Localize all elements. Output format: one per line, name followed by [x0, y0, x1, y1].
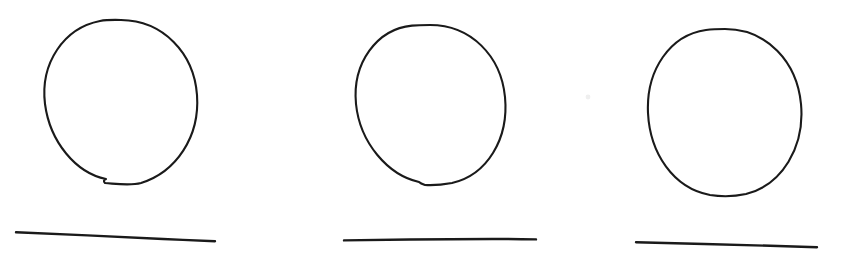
- circle-1-shape: [44, 20, 197, 185]
- sketch-canvas: [0, 0, 850, 256]
- sketch-drawing-surface: [0, 0, 850, 256]
- figure-group-1: [16, 20, 215, 241]
- figure-group-3: [636, 29, 817, 247]
- baseline-1-shape: [16, 232, 215, 241]
- stray-mark-speck: [586, 95, 591, 100]
- circle-2-shape: [356, 25, 506, 185]
- baseline-2-shape: [344, 239, 536, 240]
- circle-3-shape: [648, 29, 802, 196]
- baseline-3-shape: [636, 242, 817, 247]
- figure-group-2: [344, 25, 536, 240]
